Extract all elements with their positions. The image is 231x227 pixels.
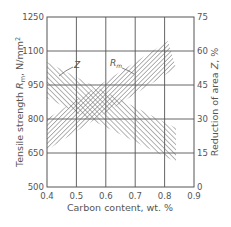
x-tick: 0.5 [70, 190, 84, 201]
y2-tick: 60 [197, 45, 208, 56]
y-axis-label: Tensile strength Rm, N/mm2 [14, 37, 27, 168]
x-tick: 0.9 [187, 190, 201, 201]
x-tick: 0.6 [99, 190, 113, 201]
y-tick: 800 [28, 113, 44, 124]
z-annotation: Z [59, 60, 81, 76]
chart: 500 650 800 950 1100 1250 0 15 30 45 60 … [0, 0, 231, 227]
x-tick: 0.8 [158, 190, 172, 201]
x-axis-label: Carbon content, wt. % [67, 202, 173, 213]
y-tick: 950 [28, 79, 44, 90]
y2-tick: 75 [197, 11, 208, 22]
rm-label: Rm [110, 58, 122, 69]
y-tick: 650 [28, 147, 44, 158]
x-tick: 0.7 [128, 190, 142, 201]
y-axis-left: 500 650 800 950 1100 1250 [22, 11, 44, 192]
x-tick: 0.4 [40, 190, 54, 201]
y2-tick: 30 [197, 113, 208, 124]
y2-tick: 45 [197, 79, 208, 90]
y-axis-right: 0 15 30 45 60 75 [197, 11, 208, 192]
y2-tick: 15 [197, 147, 208, 158]
z-label: Z [73, 60, 81, 70]
y-tick: 1100 [22, 45, 44, 56]
y-tick: 1250 [22, 11, 44, 22]
y2-axis-label: Reduction of area Z, % [209, 48, 220, 157]
x-axis: 0.4 0.5 0.6 0.7 0.8 0.9 [40, 190, 201, 201]
